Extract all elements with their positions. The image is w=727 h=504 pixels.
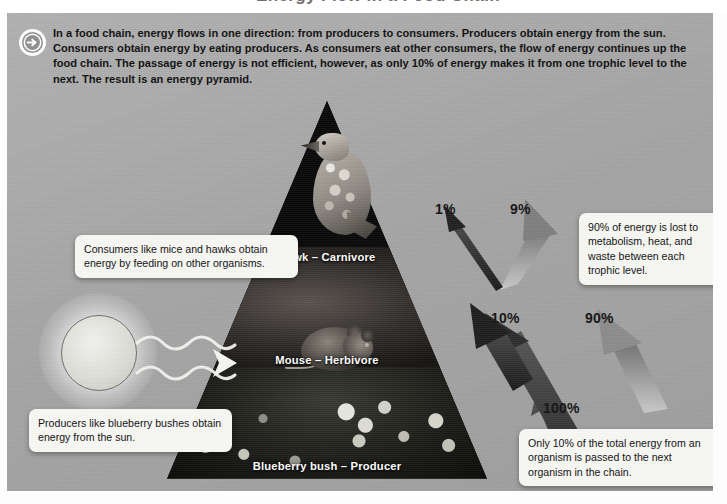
mouse-ear-right bbox=[361, 329, 374, 342]
hawk-head bbox=[315, 133, 349, 161]
percent-label-90: 90% bbox=[585, 310, 614, 326]
diagram-panel: In a food chain, energy flows in one dir… bbox=[7, 13, 713, 491]
hawk-eye bbox=[322, 141, 326, 145]
callout-energy-passed: Only 10% of the total energy from an org… bbox=[519, 429, 713, 486]
hawk-beak bbox=[301, 141, 319, 152]
percent-label-10: 10% bbox=[491, 310, 520, 326]
mouse-icon bbox=[285, 313, 381, 379]
percent-label-1: 1% bbox=[435, 201, 456, 217]
intro-paragraph: In a food chain, energy flows in one dir… bbox=[53, 26, 698, 87]
percent-label-9: 9% bbox=[510, 201, 531, 217]
arrow-right-circle-icon bbox=[19, 29, 46, 56]
mouse-eye bbox=[365, 343, 369, 347]
figure-title: Energy Flow in a Food Chain bbox=[198, 0, 558, 6]
pyramid-label-producer: Blueberry bush – Producer bbox=[167, 460, 487, 472]
callout-consumers: Consumers like mice and hawks obtain ene… bbox=[75, 235, 298, 278]
sun-disc bbox=[61, 315, 137, 391]
sun-icon bbox=[55, 309, 141, 395]
percent-label-100: 100% bbox=[543, 400, 580, 416]
pyramid-label-herbivore: Mouse – Herbivore bbox=[167, 354, 487, 366]
callout-producers: Producers like blueberry bushes obtain e… bbox=[29, 409, 232, 452]
hawk-icon bbox=[295, 115, 381, 239]
figure-title-clipped: Energy Flow in a Food Chain bbox=[0, 0, 727, 13]
callout-energy-lost: 90% of energy is lost to metabolism, hea… bbox=[579, 213, 713, 285]
figure-canvas: Energy Flow in a Food Chain In a food ch… bbox=[0, 0, 727, 504]
